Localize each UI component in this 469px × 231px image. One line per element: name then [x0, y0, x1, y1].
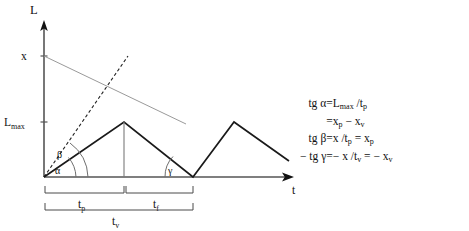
equation-rhs: − x /tv = − xv: [333, 151, 393, 169]
gamma-angle-label: γ: [167, 165, 173, 176]
equation-lhs: − tg γ: [300, 151, 326, 169]
tp-bracket: [45, 186, 124, 193]
tf-bracket: [126, 186, 193, 193]
alpha-angle-arc: [69, 158, 77, 178]
equation-rhs: x /tp = xp: [333, 133, 393, 151]
equation-lhs: [300, 116, 326, 134]
x-decay-line: [44, 56, 186, 124]
equation-rhs: xp − xv: [333, 116, 393, 134]
equation-row: tg β=x /tp = xp: [300, 133, 393, 151]
y-tick-label-lmax: Lmax: [4, 116, 25, 131]
y-tick-label-x: x: [21, 50, 27, 62]
x-axis-label: t: [292, 184, 296, 196]
waveform-figure: L t x Lmax α β γ tp tf tv: [0, 0, 469, 231]
beta-angle-label: β: [57, 149, 62, 160]
equation-row: =xp − xv: [300, 116, 393, 134]
equation-rows: tg α=Lmax /tp=xp − xvtg β=x /tp = xp− tg…: [300, 98, 393, 168]
equation-row: − tg γ=− x /tv = − xv: [300, 151, 393, 169]
equation-lhs: tg α: [300, 98, 326, 116]
tv-bracket: [45, 203, 193, 210]
y-axis-label: L: [30, 3, 38, 17]
equation-table: tg α=Lmax /tp=xp − xvtg β=x /tp = xp− tg…: [300, 98, 393, 168]
equation-block: tg α=Lmax /tp=xp − xvtg β=x /tp = xp− tg…: [300, 98, 393, 168]
alpha-angle-label: α: [55, 165, 61, 176]
equation-rhs: Lmax /tp: [333, 98, 393, 116]
sawtooth-profile: [44, 122, 289, 177]
equation-row: tg α=Lmax /tp: [300, 98, 393, 116]
tv-label: tv: [112, 215, 119, 230]
equation-lhs: tg β: [300, 133, 326, 151]
